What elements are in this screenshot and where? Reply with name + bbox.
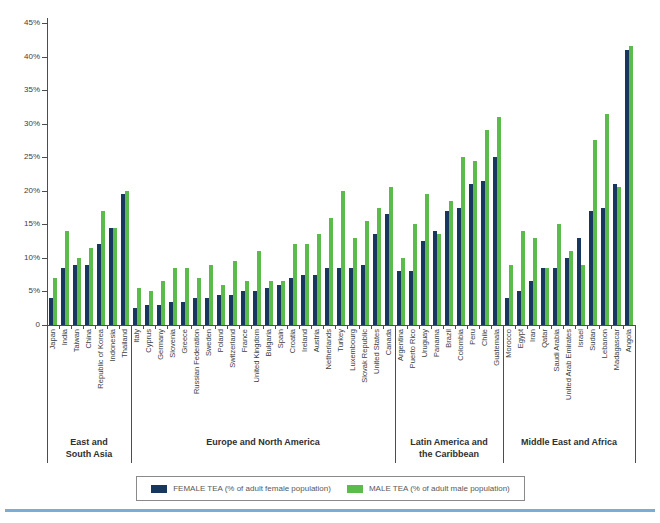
- country-label: Germany: [155, 329, 167, 419]
- female-swatch-icon: [151, 485, 167, 493]
- male-bar: [293, 244, 297, 325]
- country-label: Japan: [47, 329, 59, 419]
- male-bar: [629, 46, 633, 325]
- country-label: Angola: [623, 329, 635, 419]
- male-bar: [461, 157, 465, 325]
- y-tick-label: 10%: [6, 253, 40, 263]
- country-label: Morocco: [503, 329, 515, 419]
- male-swatch-icon: [347, 485, 363, 493]
- male-bar: [485, 130, 489, 325]
- male-bar: [353, 238, 357, 325]
- country-label: Turkey: [335, 329, 347, 419]
- country-label: Italy: [131, 329, 143, 419]
- male-bar: [317, 234, 321, 325]
- country-label: Chile: [479, 329, 491, 419]
- male-bar: [341, 191, 345, 325]
- male-bar: [101, 211, 105, 325]
- x-axis: [47, 325, 636, 326]
- region-label: Europe and North America: [131, 437, 395, 449]
- country-label: Russian Federation: [191, 329, 203, 419]
- y-tick-label: 15%: [6, 219, 40, 229]
- y-tick: [42, 124, 47, 125]
- male-bar: [509, 265, 513, 325]
- y-tick-label: 0: [6, 320, 40, 330]
- male-bar: [533, 238, 537, 325]
- country-label: France: [239, 329, 251, 419]
- male-bar: [137, 288, 141, 325]
- y-tick: [42, 258, 47, 259]
- country-label: Croatia: [287, 329, 299, 419]
- male-bar: [557, 224, 561, 325]
- male-bar: [401, 258, 405, 325]
- country-label: Israel: [575, 329, 587, 419]
- y-tick-label: 35%: [6, 85, 40, 95]
- legend-label-female: FEMALE TEA (% of adult female population…: [173, 484, 331, 493]
- country-label: United States: [371, 329, 383, 419]
- legend-box: FEMALE TEA (% of adult female population…: [136, 476, 525, 501]
- country-label: Republic of Korea: [95, 329, 107, 419]
- male-bar: [581, 265, 585, 325]
- country-label: Thailand: [119, 329, 131, 419]
- y-tick: [42, 157, 47, 158]
- country-label: Taiwan: [71, 329, 83, 419]
- country-label: Switzerland: [227, 329, 239, 419]
- male-bar: [77, 258, 81, 325]
- male-bar: [197, 278, 201, 325]
- y-tick-label: 45%: [6, 18, 40, 28]
- country-label: Madagascar: [611, 329, 623, 419]
- male-bar: [365, 221, 369, 325]
- y-tick-label: 30%: [6, 119, 40, 129]
- country-label: Indonesia: [107, 329, 119, 419]
- country-label: China: [83, 329, 95, 419]
- country-label: Lebanon: [599, 329, 611, 419]
- country-label: Spain: [275, 329, 287, 419]
- y-tick: [42, 90, 47, 91]
- country-label: Slovak Republic: [359, 329, 371, 419]
- male-bar: [449, 201, 453, 325]
- country-label: Cyprus: [143, 329, 155, 419]
- y-tick: [42, 23, 47, 24]
- country-label: Uruguay: [419, 329, 431, 419]
- y-tick-label: 40%: [6, 52, 40, 62]
- country-label: Sweden: [203, 329, 215, 419]
- legend-item-male: MALE TEA (% of adult male population): [347, 484, 510, 493]
- male-bar: [497, 117, 501, 325]
- male-bar: [221, 285, 225, 325]
- male-bar: [65, 231, 69, 325]
- male-bar: [389, 187, 393, 325]
- male-bar: [233, 261, 237, 325]
- male-bar: [269, 281, 273, 325]
- country-label: Greece: [179, 329, 191, 419]
- country-label: United Arab Emirates: [563, 329, 575, 419]
- male-bar: [173, 268, 177, 325]
- y-tick: [42, 291, 47, 292]
- country-label: Canada: [383, 329, 395, 419]
- tea-bar-chart: FEMALE TEA (% of adult female population…: [0, 0, 660, 523]
- male-bar: [281, 281, 285, 325]
- male-bar: [113, 228, 117, 325]
- country-label: Luxembourg: [347, 329, 359, 419]
- country-label: Puerto Rico: [407, 329, 419, 419]
- y-axis: [47, 18, 48, 326]
- country-label: Saudi Arabia: [551, 329, 563, 419]
- male-bar: [605, 114, 609, 325]
- male-bar: [617, 187, 621, 325]
- male-bar: [245, 281, 249, 325]
- region-separator: [635, 326, 636, 463]
- male-bar: [521, 231, 525, 325]
- country-label: Colombia: [455, 329, 467, 419]
- country-label: United Kingdom: [251, 329, 263, 419]
- male-bar: [413, 224, 417, 325]
- male-bar: [377, 208, 381, 325]
- male-bar: [161, 281, 165, 325]
- male-bar: [437, 234, 441, 325]
- male-bar: [593, 140, 597, 325]
- male-bar: [257, 251, 261, 325]
- y-tick-label: 25%: [6, 152, 40, 162]
- region-label: Latin America and the Caribbean: [395, 437, 503, 460]
- legend-label-male: MALE TEA (% of adult male population): [369, 484, 510, 493]
- y-tick: [42, 191, 47, 192]
- country-label: India: [59, 329, 71, 419]
- country-label: Qatar: [539, 329, 551, 419]
- bottom-rule: [5, 509, 655, 512]
